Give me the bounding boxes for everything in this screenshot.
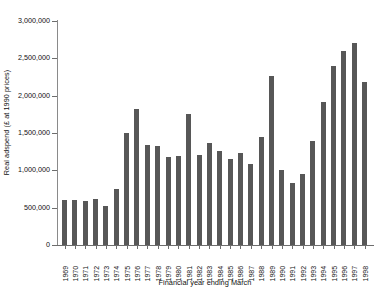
- bar: [310, 141, 315, 245]
- bar: [166, 157, 171, 245]
- bar: [290, 183, 295, 245]
- bar: [62, 200, 67, 245]
- bar: [331, 66, 336, 245]
- x-axis-tick-mark: [365, 246, 366, 249]
- x-axis-tick-mark: [65, 246, 66, 249]
- y-axis-tick-mark: [52, 133, 57, 134]
- x-axis-tick-mark: [334, 246, 335, 249]
- x-axis-tick-mark: [272, 246, 273, 249]
- bar: [124, 133, 129, 245]
- y-axis-tick-label: 2,500,000: [18, 53, 50, 62]
- x-axis-tick-mark: [147, 246, 148, 249]
- bar: [238, 153, 243, 245]
- x-axis-tick-mark: [230, 246, 231, 249]
- y-axis-tick-label: 1,500,000: [18, 128, 50, 137]
- x-axis-tick-mark: [106, 246, 107, 249]
- bar: [155, 146, 160, 245]
- x-axis-tick-mark: [303, 246, 304, 249]
- x-axis-tick-mark: [261, 246, 262, 249]
- x-axis-tick-mark: [313, 246, 314, 249]
- x-axis-tick-mark: [209, 246, 210, 249]
- y-axis-tick-mark: [52, 58, 57, 59]
- x-axis-tick-mark: [282, 246, 283, 249]
- x-axis-tick-mark: [344, 246, 345, 249]
- bar: [145, 145, 150, 245]
- bar: [279, 170, 284, 245]
- bar: [228, 159, 233, 245]
- y-axis-tick-label: 0: [46, 240, 50, 249]
- bar: [93, 199, 98, 245]
- y-axis-tick-label: 3,000,000: [18, 16, 50, 25]
- bar: [103, 206, 108, 245]
- bar: [248, 164, 253, 245]
- y-axis-tick-mark: [52, 170, 57, 171]
- bar: [197, 155, 202, 245]
- y-axis-tick-label: 1,000,000: [18, 165, 50, 174]
- bar: [72, 200, 77, 245]
- bar: [352, 43, 357, 245]
- x-axis-tick-mark: [292, 246, 293, 249]
- y-axis-title: Real adspend (£ at 1990 prices): [0, 0, 14, 245]
- bar: [83, 201, 88, 245]
- x-axis-tick-mark: [199, 246, 200, 249]
- bar: [321, 102, 326, 245]
- x-axis-tick-mark: [158, 246, 159, 249]
- x-axis-tick-mark: [127, 246, 128, 249]
- x-axis-tick-mark: [85, 246, 86, 249]
- bar: [186, 114, 191, 245]
- y-axis-tick-label: 500,000: [24, 203, 50, 212]
- bar: [269, 76, 274, 245]
- y-axis-tick-label: 2,000,000: [18, 91, 50, 100]
- x-axis-tick-mark: [116, 246, 117, 249]
- x-axis-tick-mark: [189, 246, 190, 249]
- y-axis-title-text: Real adspend (£ at 1990 prices): [3, 70, 12, 175]
- x-axis-tick-mark: [323, 246, 324, 249]
- y-axis-tick-mark: [52, 245, 57, 246]
- x-axis-tick-mark: [75, 246, 76, 249]
- x-axis-tick-mark: [178, 246, 179, 249]
- bar: [134, 109, 139, 245]
- x-axis-tick-mark: [137, 246, 138, 249]
- bar: [114, 189, 119, 245]
- y-axis-tick-mark: [52, 208, 57, 209]
- y-axis-tick-mark: [52, 96, 57, 97]
- x-axis-tick-mark: [251, 246, 252, 249]
- bar: [259, 137, 264, 245]
- bar: [217, 151, 222, 245]
- bar: [176, 156, 181, 245]
- x-axis-tick-mark: [354, 246, 355, 249]
- bar: [341, 51, 346, 245]
- x-axis-tick-mark: [220, 246, 221, 249]
- x-axis-title-text: Financial year ending March: [159, 278, 252, 287]
- x-axis-tick-mark: [240, 246, 241, 249]
- bar: [207, 143, 212, 245]
- x-axis-tick-mark: [168, 246, 169, 249]
- x-axis-title: Financial year ending March: [0, 278, 376, 287]
- bar-chart-figure: Real adspend (£ at 1990 prices) 0500,000…: [0, 0, 376, 297]
- y-axis-tick-mark: [52, 21, 57, 22]
- bar: [300, 174, 305, 245]
- bar: [362, 82, 367, 245]
- x-axis-tick-mark: [96, 246, 97, 249]
- x-axis-line: [55, 245, 374, 246]
- y-axis-line: [57, 20, 58, 246]
